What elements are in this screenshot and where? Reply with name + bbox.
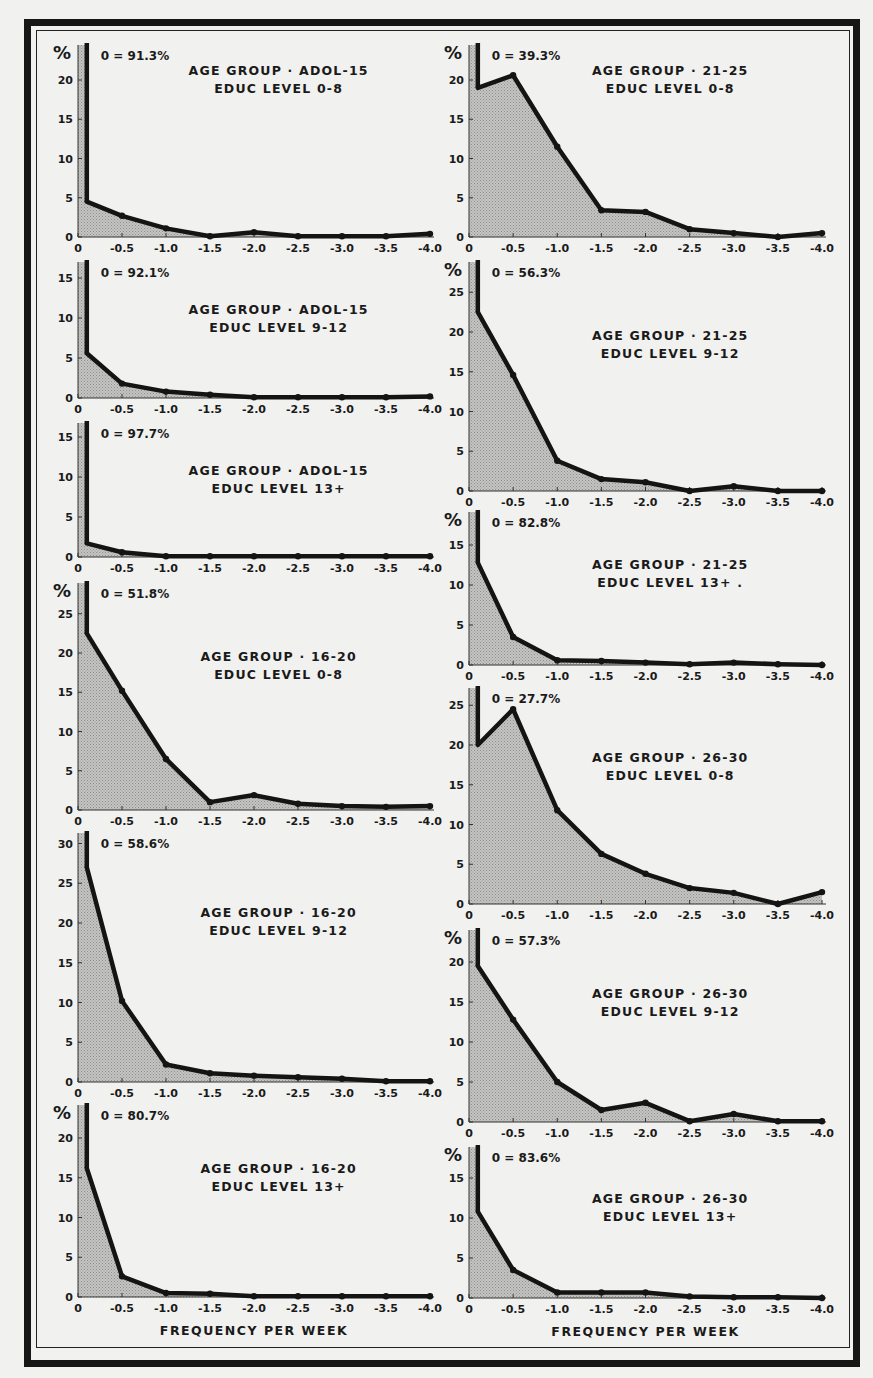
y-tick-label: 0 xyxy=(65,231,73,244)
zero-value-label: 0 = 39.3% xyxy=(492,49,560,63)
x-tick-label: -4.0 xyxy=(418,403,442,416)
x-tick-label: -4.0 xyxy=(418,562,442,575)
x-tick-label: -3.0 xyxy=(722,670,746,683)
x-tick-label: -1.5 xyxy=(589,670,613,683)
data-point xyxy=(427,1078,433,1084)
percent-symbol: % xyxy=(53,42,71,63)
data-point xyxy=(295,233,301,239)
data-point xyxy=(383,1078,389,1084)
data-point xyxy=(642,209,648,215)
x-tick-label: -2.0 xyxy=(242,562,266,575)
data-point xyxy=(819,230,825,236)
x-tick-label: -0.5 xyxy=(110,403,134,416)
data-point xyxy=(295,394,301,400)
x-tick-label: 0 xyxy=(465,909,473,922)
data-point xyxy=(642,479,648,485)
y-tick-label: 5 xyxy=(65,192,73,205)
zero-value-label: 0 = 97.7% xyxy=(101,427,169,441)
data-point xyxy=(598,1289,604,1295)
y-tick-label: 15 xyxy=(449,113,464,126)
data-point xyxy=(119,687,125,693)
y-tick-label: 10 xyxy=(58,997,74,1010)
x-tick-label: -1.5 xyxy=(589,242,613,255)
chart-panel-a21_25_9_12: 05101520250-0.5-1.0-1.5-2.0-2.5-3.0-3.5-… xyxy=(444,259,834,509)
data-point xyxy=(819,488,825,494)
x-tick-label: -1.5 xyxy=(589,1127,613,1140)
x-tick-label: -3.5 xyxy=(374,562,398,575)
y-tick-label: 20 xyxy=(449,956,465,969)
y-tick-label: 20 xyxy=(58,917,74,930)
data-point xyxy=(510,1267,516,1273)
data-point xyxy=(510,706,516,712)
data-point xyxy=(427,803,433,809)
panel-subtitle: EDUC LEVEL 9-12 xyxy=(601,1004,740,1019)
data-point xyxy=(339,233,345,239)
data-point xyxy=(119,380,125,386)
y-tick-label: 10 xyxy=(449,579,465,592)
x-tick-label: -4.0 xyxy=(810,1303,834,1316)
data-point xyxy=(598,207,604,213)
chart-panel-a16_20_0_8: 05101520250-0.5-1.0-1.5-2.0-2.5-3.0-3.5-… xyxy=(53,580,442,828)
data-point xyxy=(686,1118,692,1124)
data-point xyxy=(251,1293,257,1299)
x-tick-label: -3.0 xyxy=(330,242,354,255)
y-tick-label: 5 xyxy=(65,1036,73,1049)
data-point xyxy=(554,807,560,813)
x-tick-label: -3.5 xyxy=(766,242,790,255)
data-point xyxy=(554,1289,560,1295)
y-tick-label: 0 xyxy=(65,392,73,405)
panel-subtitle: EDUC LEVEL 9-12 xyxy=(209,923,348,938)
panel-title: AGE GROUP · 21-25 xyxy=(592,63,748,78)
data-point xyxy=(427,1293,433,1299)
x-tick-label: 0 xyxy=(74,1302,82,1315)
zero-value-label: 0 = 58.6% xyxy=(101,837,169,851)
y-tick-label: 15 xyxy=(58,272,73,285)
x-tick-label: -0.5 xyxy=(501,1127,525,1140)
x-tick-label: -3.5 xyxy=(374,1302,398,1315)
x-tick-label: -1.0 xyxy=(154,1087,178,1100)
data-point xyxy=(686,488,692,494)
chart-panel-a21_25_0_8: 051015200-0.5-1.0-1.5-2.0-2.5-3.0-3.5-4.… xyxy=(444,42,834,255)
x-tick-label: -3.0 xyxy=(722,496,746,509)
area-fill xyxy=(78,583,430,810)
data-point xyxy=(163,553,169,559)
area-fill xyxy=(469,262,822,491)
panel-subtitle: EDUC LEVEL 13+ . xyxy=(597,575,743,590)
data-point xyxy=(819,1118,825,1124)
x-tick-label: -1.5 xyxy=(198,242,222,255)
x-tick-label: -3.5 xyxy=(766,909,790,922)
y-tick-label: 5 xyxy=(456,1076,464,1089)
x-tick-label: -2.0 xyxy=(242,403,266,416)
data-point xyxy=(642,871,648,877)
x-tick-label: -1.0 xyxy=(545,496,569,509)
x-tick-label: -3.0 xyxy=(330,1302,354,1315)
x-tick-label: -1.5 xyxy=(198,1087,222,1100)
percent-symbol: % xyxy=(444,42,462,63)
data-point xyxy=(383,553,389,559)
data-point xyxy=(731,890,737,896)
data-point xyxy=(819,889,825,895)
x-tick-label: 0 xyxy=(74,815,82,828)
data-point xyxy=(510,1016,516,1022)
data-point xyxy=(295,1074,301,1080)
chart-panel-a26_30_13p: 0510150-0.5-1.0-1.5-2.0-2.5-3.0-3.5-4.0%… xyxy=(444,1144,834,1339)
zero-value-label: 0 = 83.6% xyxy=(492,1151,560,1165)
data-point xyxy=(207,1070,213,1076)
panel-title: AGE GROUP · 16-20 xyxy=(200,649,356,664)
panel-title: AGE GROUP · 26-30 xyxy=(592,986,748,1001)
data-point xyxy=(251,229,257,235)
x-tick-label: 0 xyxy=(74,403,82,416)
data-point xyxy=(163,388,169,394)
x-tick-label: -4.0 xyxy=(418,242,442,255)
data-point xyxy=(686,226,692,232)
x-tick-label: -1.5 xyxy=(589,909,613,922)
x-tick-label: -2.0 xyxy=(633,1127,657,1140)
x-tick-label: -3.0 xyxy=(330,815,354,828)
x-tick-label: -0.5 xyxy=(501,496,525,509)
panel-title: AGE GROUP · 26-30 xyxy=(592,1191,748,1206)
x-tick-label: -2.5 xyxy=(678,496,702,509)
data-point xyxy=(251,553,257,559)
data-point xyxy=(163,1290,169,1296)
data-point xyxy=(731,483,737,489)
panel-title: AGE GROUP · ADOL-15 xyxy=(189,63,369,78)
